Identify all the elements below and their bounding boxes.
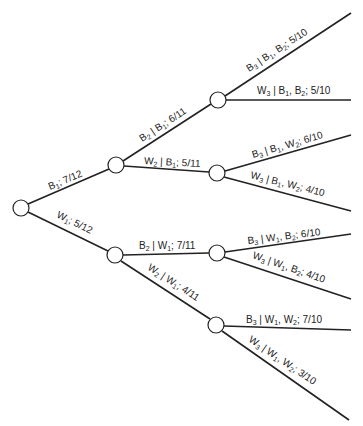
label-leaf-2: W3 | B1, B2; 5/10 — [257, 85, 331, 97]
node-b1-w2 — [209, 165, 225, 181]
label-root-b1: B1; 7/12 — [46, 168, 84, 193]
label-root-w1: W1; 5/12 — [55, 209, 95, 237]
node-w1-w2 — [208, 317, 224, 333]
label-leaf-8: W3 | W1, W2; 3/10 — [246, 334, 318, 388]
label-leaf-1: B3 | B1, B2; 5/10 — [244, 26, 310, 75]
label-leaf-6: W3 | W1, B2; 4/10 — [251, 249, 327, 285]
edge-w1-b2 — [123, 253, 209, 255]
label-w1-b2: B2 | W1; 7/11 — [139, 240, 196, 252]
node-w1 — [107, 247, 123, 263]
node-w1-b2 — [209, 245, 225, 261]
label-b1-b2: B2 | B1; 6/11 — [137, 105, 189, 144]
label-leaf-7: B3 | W1, W2; 7/10 — [246, 314, 322, 326]
edge-leaf-8 — [222, 331, 349, 420]
node-root — [13, 200, 29, 216]
edge-leaf-7 — [224, 326, 351, 330]
edge-b1-b2 — [123, 104, 211, 161]
probability-tree-diagram: B1; 7/12 W1; 5/12 B2 | B1; 6/11 W2 | B1;… — [0, 0, 363, 426]
node-b1 — [108, 157, 124, 173]
edge-leaf-1 — [225, 13, 351, 96]
node-b1-b2 — [210, 92, 226, 108]
